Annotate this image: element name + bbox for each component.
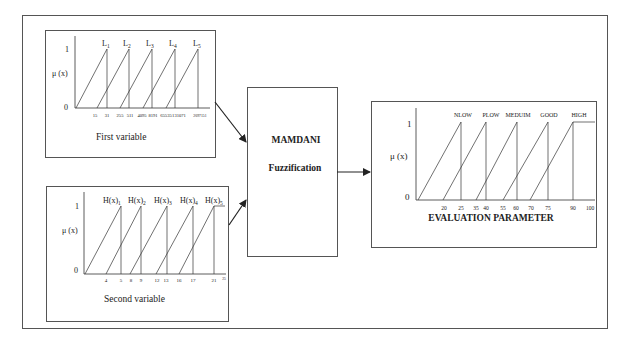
second-variable-panel: 1 μ (x) 0 H(x)1 H(x)2 H(x)3 H(x)4 H(x)5 … — [47, 187, 229, 322]
svg-text:40: 40 — [483, 205, 489, 211]
y-top-label: 1 — [65, 45, 69, 54]
svg-text:17: 17 — [191, 278, 197, 283]
svg-text:25: 25 — [222, 277, 226, 281]
svg-text:31: 31 — [105, 113, 110, 118]
y-bottom-label: 0 — [64, 103, 68, 112]
svg-text:100: 100 — [586, 205, 595, 211]
svg-text:MEDUIM: MEDUIM — [506, 112, 532, 118]
evaluation-parameter-panel: 1 μ (x) 0 NLOW PLOW MEDUIM GOOD HIGH 20 … — [372, 102, 597, 248]
svg-text:90: 90 — [570, 205, 576, 211]
first-variable-panel: 1 μ (x) 0 L1 L2 L3 L4 L5 15 31 255 511 4… — [46, 31, 216, 158]
first-variable-caption: First variable — [96, 132, 146, 142]
svg-text:16: 16 — [177, 278, 183, 283]
svg-text:25: 25 — [458, 205, 464, 211]
svg-text:55: 55 — [500, 205, 506, 211]
y-top-label: 1 — [75, 202, 79, 211]
y-axis-label: μ (x) — [52, 69, 68, 78]
y-bottom-label: 0 — [74, 266, 78, 275]
arrow-second-to-mamdani — [229, 200, 246, 225]
svg-text:GOOD: GOOD — [540, 112, 558, 118]
svg-text:13: 13 — [164, 278, 170, 283]
evaluation-box — [372, 102, 597, 248]
y-axis-label: μ (x) — [62, 226, 78, 235]
svg-text:8191: 8191 — [148, 113, 158, 118]
svg-text:65535: 65535 — [160, 113, 172, 118]
evaluation-caption: EVALUATION PARAMETER — [428, 213, 553, 223]
mamdani-fuzzification-block: MAMDANI Fuzzification — [248, 88, 338, 257]
svg-text:70: 70 — [528, 205, 534, 211]
second-variable-caption: Second variable — [104, 294, 165, 304]
mamdani-title: MAMDANI — [271, 135, 320, 145]
y-bottom-label: 0 — [405, 192, 410, 202]
svg-text:60: 60 — [513, 205, 519, 211]
svg-text:75: 75 — [545, 205, 551, 211]
svg-text:255: 255 — [117, 113, 125, 118]
svg-text:131071: 131071 — [172, 113, 186, 118]
fuzzy-system-diagram: 1 μ (x) 0 L1 L2 L3 L4 L5 15 31 255 511 4… — [0, 0, 618, 346]
svg-text:NLOW: NLOW — [454, 112, 472, 118]
svg-text:35: 35 — [473, 205, 479, 211]
svg-text:PLOW: PLOW — [483, 112, 500, 118]
svg-text:2097151: 2097151 — [193, 114, 206, 118]
mamdani-subtitle: Fuzzification — [269, 163, 322, 173]
svg-text:20: 20 — [441, 205, 447, 211]
svg-text:511: 511 — [127, 113, 134, 118]
svg-text:HIGH: HIGH — [572, 112, 588, 118]
svg-text:15: 15 — [93, 113, 98, 118]
arrow-first-to-mamdani — [215, 102, 246, 142]
svg-text:4095: 4095 — [137, 113, 147, 118]
y-top-label: 1 — [407, 119, 412, 129]
svg-text:21: 21 — [212, 278, 218, 283]
svg-text:12: 12 — [155, 278, 161, 283]
y-axis-label: μ (x) — [390, 151, 408, 161]
